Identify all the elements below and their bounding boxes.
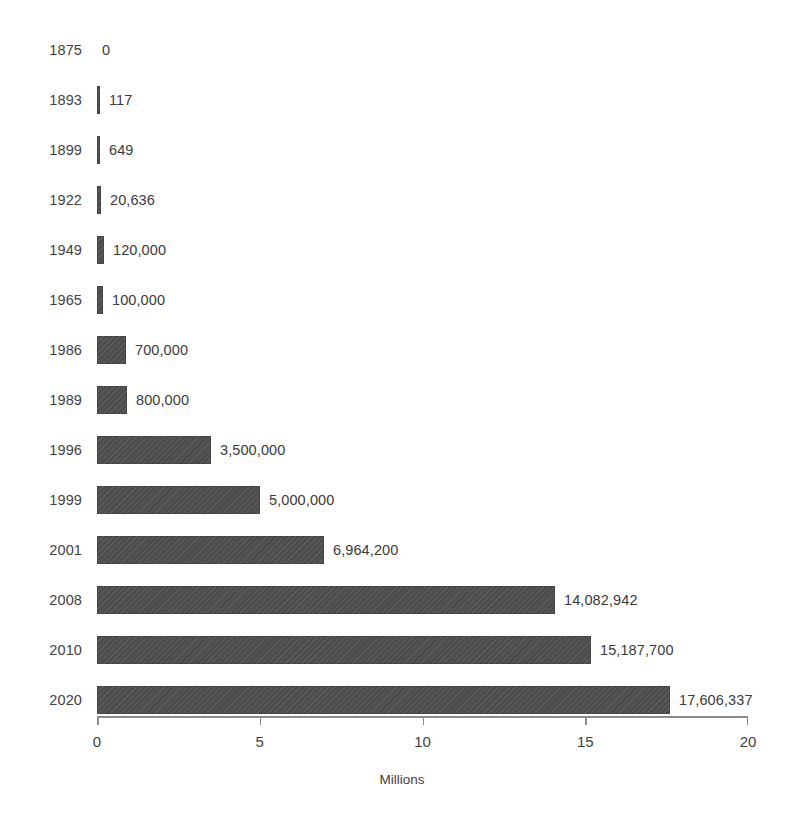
bar-value-label: 3,500,000 — [220, 442, 285, 458]
x-axis-tick — [747, 716, 749, 725]
bar-value-label: 6,964,200 — [333, 542, 398, 558]
bar-row: 18750 — [0, 33, 804, 67]
x-axis-tick — [585, 716, 587, 725]
x-axis-tick-label: 20 — [740, 733, 757, 750]
bar-value-label: 800,000 — [136, 392, 189, 408]
bar-row-year-label: 1922 — [0, 192, 82, 208]
bar-value-label: 700,000 — [135, 342, 188, 358]
bar-and-value: 800,000 — [97, 386, 189, 414]
bar-value-label: 20,636 — [110, 192, 155, 208]
bar — [97, 286, 103, 314]
x-axis-tick-label: 0 — [93, 733, 101, 750]
bar — [97, 86, 100, 114]
bar-row: 19995,000,000 — [0, 483, 804, 517]
bar-row: 1989800,000 — [0, 383, 804, 417]
bar-row-year-label: 1893 — [0, 92, 82, 108]
bar — [97, 236, 104, 264]
bar-and-value: 100,000 — [97, 286, 165, 314]
bar-row: 1899649 — [0, 133, 804, 167]
bar-row: 1893117 — [0, 83, 804, 117]
bar-and-value: 20,636 — [97, 186, 155, 214]
bar-row: 1949120,000 — [0, 233, 804, 267]
bar-value-label: 17,606,337 — [679, 692, 753, 708]
bar-row-year-label: 1899 — [0, 142, 82, 158]
bar — [97, 436, 211, 464]
bar-row: 1986700,000 — [0, 333, 804, 367]
bar-value-label: 0 — [102, 42, 110, 58]
bar-and-value: 5,000,000 — [97, 486, 334, 514]
bar-and-value: 117 — [97, 86, 132, 114]
bar-row: 202017,606,337 — [0, 683, 804, 717]
bar — [97, 586, 555, 614]
bar — [97, 636, 591, 664]
bar-value-label: 117 — [109, 92, 132, 108]
bar-row-year-label: 2020 — [0, 692, 82, 708]
bar — [97, 536, 324, 564]
bar-value-label: 649 — [109, 142, 134, 158]
bar-row-year-label: 1999 — [0, 492, 82, 508]
bar-row-year-label: 1986 — [0, 342, 82, 358]
x-axis-tick — [423, 716, 425, 725]
bar — [97, 486, 260, 514]
bar-row-year-label: 1996 — [0, 442, 82, 458]
bar-row: 201015,187,700 — [0, 633, 804, 667]
bar-and-value: 120,000 — [97, 236, 166, 264]
bar-row: 19963,500,000 — [0, 433, 804, 467]
bar-and-value: 649 — [97, 136, 134, 164]
bar-value-label: 15,187,700 — [600, 642, 674, 658]
bar — [97, 386, 127, 414]
bar-row-year-label: 1989 — [0, 392, 82, 408]
bar-row-year-label: 1949 — [0, 242, 82, 258]
bar-row: 200814,082,942 — [0, 583, 804, 617]
bar-row: 20016,964,200 — [0, 533, 804, 567]
x-axis-tick — [260, 716, 262, 725]
bar-value-label: 5,000,000 — [269, 492, 334, 508]
bar-and-value: 15,187,700 — [97, 636, 674, 664]
x-axis-line — [97, 716, 748, 718]
bar-value-label: 14,082,942 — [564, 592, 638, 608]
bar-and-value: 700,000 — [97, 336, 188, 364]
bar — [97, 336, 126, 364]
bar — [97, 186, 101, 214]
bar-row-year-label: 1965 — [0, 292, 82, 308]
x-axis-title: Millions — [0, 772, 804, 787]
x-axis-tick-label: 5 — [256, 733, 264, 750]
horizontal-bar-chart: 1875018931171899649192220,6361949120,000… — [0, 0, 804, 815]
bar-and-value: 14,082,942 — [97, 586, 638, 614]
x-axis-tick-label: 15 — [577, 733, 594, 750]
x-axis-tick — [97, 716, 99, 725]
bar-and-value: 0 — [97, 36, 110, 64]
bar-row: 192220,636 — [0, 183, 804, 217]
bar-row: 1965100,000 — [0, 283, 804, 317]
bar — [97, 136, 100, 164]
x-axis-tick-label: 10 — [414, 733, 431, 750]
bar-value-label: 120,000 — [113, 242, 166, 258]
bar-and-value: 6,964,200 — [97, 536, 398, 564]
bar-and-value: 17,606,337 — [97, 686, 753, 714]
bar-and-value: 3,500,000 — [97, 436, 285, 464]
bar — [97, 686, 670, 714]
bar-row-year-label: 2001 — [0, 542, 82, 558]
bar-value-label: 100,000 — [112, 292, 165, 308]
bar-row-year-label: 2008 — [0, 592, 82, 608]
bar-row-year-label: 2010 — [0, 642, 82, 658]
bar-row-year-label: 1875 — [0, 42, 82, 58]
